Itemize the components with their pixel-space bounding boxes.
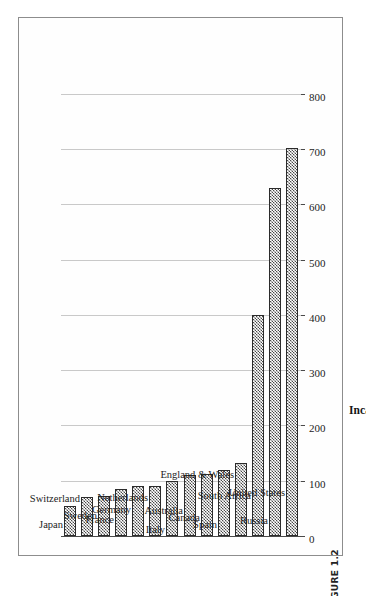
chart-canvas: 0100200300400500600700800 JapanSwitzerla… [61, 37, 301, 537]
value-tick-label: 800 [309, 91, 326, 103]
category-label: Russia [240, 514, 268, 525]
category-label: United States [229, 486, 285, 497]
value-tick-label: 400 [309, 312, 326, 324]
category-label: England & Wales [160, 469, 234, 480]
figure-border: 0100200300400500600700800 JapanSwitzerla… [18, 17, 343, 556]
bar-slot [252, 94, 264, 536]
value-tick-label: 300 [309, 367, 326, 379]
bar-slot [63, 94, 75, 536]
value-tick-label: 200 [309, 422, 326, 434]
bar-slot [97, 94, 109, 536]
axis-tick [301, 425, 305, 426]
value-tick-label: 600 [309, 201, 326, 213]
value-tick-label: 0 [309, 533, 315, 545]
axis-tick [301, 315, 305, 316]
category-label: Germany [92, 503, 131, 514]
axis-tick [301, 536, 305, 537]
axis-tick [301, 204, 305, 205]
figure-caption: FIGURE 1.2 [330, 549, 340, 596]
axis-tick [301, 149, 305, 150]
category-label: Netherlands [97, 492, 148, 503]
bar-slot [80, 94, 92, 536]
bar[interactable] [269, 187, 281, 535]
axis-tick [301, 480, 305, 481]
bar-slot [235, 94, 247, 536]
bar[interactable] [252, 315, 264, 536]
bar[interactable] [286, 148, 298, 536]
bar-slot [269, 94, 281, 536]
axis-tick [301, 259, 305, 260]
category-label: France [85, 514, 114, 525]
value-tick-label: 700 [309, 146, 326, 158]
value-tick-label: 500 [309, 256, 326, 268]
value-axis-title: Incarceration Rate / 100,000 [349, 404, 366, 416]
bar-slot [115, 94, 127, 536]
category-label: Italy [146, 523, 165, 534]
bar-slot [286, 94, 298, 536]
bar-slot [132, 94, 144, 536]
bar-slot [149, 94, 161, 536]
axis-tick [301, 370, 305, 371]
category-label: Switzerland [29, 492, 79, 503]
axis-tick [301, 94, 305, 95]
category-label: Japan [38, 519, 62, 530]
value-tick-label: 100 [309, 477, 326, 489]
category-label: Spain [192, 519, 216, 530]
